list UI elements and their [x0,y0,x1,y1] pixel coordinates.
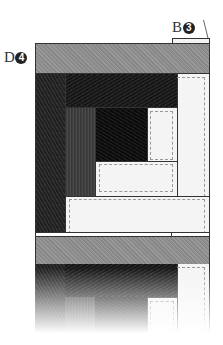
fade-overlay [30,268,215,345]
quilt-block-second [0,0,223,345]
piece-second-top-grey-strip [35,236,210,265]
